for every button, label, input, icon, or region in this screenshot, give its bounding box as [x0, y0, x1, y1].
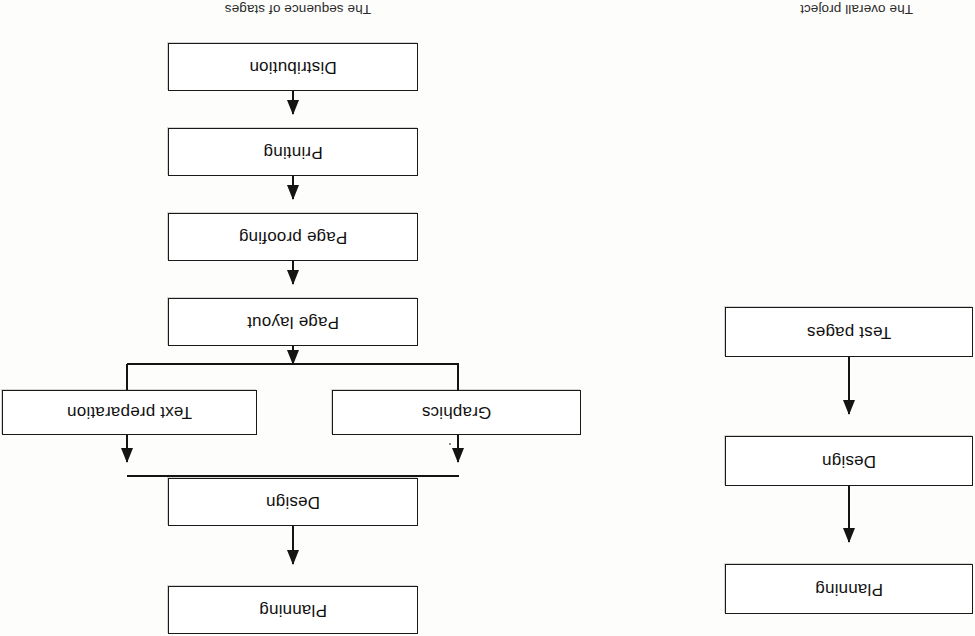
node-label: Printing [263, 142, 322, 162]
edge-design-to-test-pages-overall [848, 357, 850, 414]
edge-planning-to-design-overall [848, 486, 850, 542]
node-design-overall: Design [725, 436, 973, 486]
scan-speck [449, 443, 451, 445]
node-label: Distribution [249, 57, 336, 77]
scanned-page-content: The overall project The sequence of stag… [0, 0, 975, 636]
node-page-layout: Page layout [168, 298, 418, 346]
node-distribution: Distribution [168, 43, 418, 91]
node-planning-overall: Planning [725, 564, 973, 614]
edge-graphics-riser [457, 364, 459, 390]
node-page-proofing: Page proofing [168, 213, 418, 261]
node-label: Page layout [247, 312, 339, 332]
node-label: Planning [815, 579, 883, 599]
caption-sequence-of-stages: The sequence of stages [225, 2, 371, 17]
edge-design-to-text-preparation [126, 435, 128, 462]
node-label: Test pages [807, 322, 891, 342]
node-test-pages-overall: Test pages [725, 307, 973, 357]
edge-planning-to-design-sequence [292, 526, 294, 564]
node-printing: Printing [168, 128, 418, 176]
node-planning-sequence: Planning [168, 586, 418, 634]
node-label: Planning [259, 600, 327, 620]
node-graphics: Graphics [332, 390, 581, 435]
node-label: Design [822, 451, 876, 471]
edge-merge-to-page-layout [292, 346, 294, 364]
diagram-page: The overall project The sequence of stag… [0, 0, 975, 636]
edge-design-to-graphics [457, 435, 459, 462]
caption-overall-project: The overall project [800, 2, 913, 17]
node-label: Page proofing [239, 227, 347, 247]
node-text-preparation: Text preparation [2, 390, 257, 435]
node-label: Design [266, 492, 320, 512]
node-label: Graphics [422, 403, 492, 423]
edge-text-preparation-riser [126, 364, 128, 390]
node-label: Text preparation [67, 403, 192, 423]
node-design-sequence: Design [168, 478, 418, 526]
edge-design-split-bar [127, 475, 459, 477]
